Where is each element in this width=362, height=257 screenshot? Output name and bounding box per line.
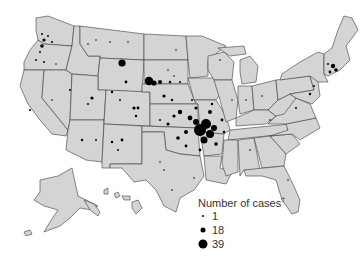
alaska (34, 168, 98, 232)
legend-dot-small-icon (202, 215, 204, 217)
legend-item-1: 1 (198, 209, 318, 223)
legend-dot-medium-icon (201, 227, 206, 232)
aleutian-islands (24, 230, 32, 236)
hawaii (104, 188, 142, 214)
legend-title: Number of cases† (198, 196, 318, 209)
legend-item-18: 18 (198, 223, 318, 237)
legend-dot-large-icon (199, 239, 208, 248)
legend-item-39: 39 (198, 237, 318, 251)
map-legend: Number of cases† 1 18 39 (198, 196, 318, 251)
